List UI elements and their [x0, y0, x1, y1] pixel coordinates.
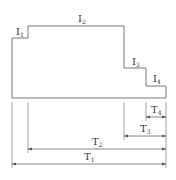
profile-outline: [12, 26, 166, 98]
label-i1: I1: [16, 26, 24, 38]
label-i3: I3: [132, 56, 140, 68]
label-t4: T4: [151, 104, 162, 116]
label-t2: T2: [92, 136, 103, 148]
label-i2: I2: [78, 13, 86, 25]
label-t3: T3: [140, 123, 151, 135]
label-t1: T1: [84, 151, 95, 163]
stepped-profile-diagram: I1 I2 I3 I4 T4 T3 T2 T1: [0, 0, 176, 180]
label-i4: I4: [153, 73, 161, 85]
